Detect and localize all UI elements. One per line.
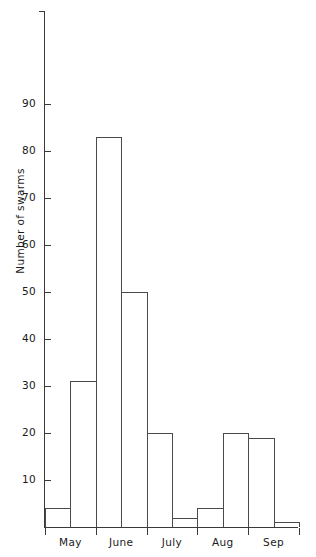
y-tick-label: 10 — [0, 473, 36, 485]
y-axis-title: Number of swarms — [14, 141, 26, 301]
y-tick-mark — [45, 151, 51, 152]
y-axis-line — [44, 11, 45, 528]
y-tick-mark — [45, 104, 51, 105]
bar-july-first — [147, 433, 173, 527]
x-tick-mark — [147, 528, 148, 535]
x-tick-mark — [45, 528, 46, 535]
y-tick-label: 60 — [0, 238, 36, 250]
bar-june-first — [96, 137, 122, 527]
bar-sep-second — [274, 522, 300, 527]
x-tick-mark — [96, 528, 97, 535]
bar-may-first — [45, 508, 71, 527]
y-tick-label: 40 — [0, 332, 36, 344]
x-axis-line — [44, 527, 298, 528]
y-tick-label: 20 — [0, 426, 36, 438]
y-tick-mark — [45, 433, 51, 434]
bar-may-second — [70, 381, 96, 527]
y-tick-label: 50 — [0, 285, 36, 297]
y-tick-label: 90 — [0, 97, 36, 109]
y-tick-mark — [45, 292, 51, 293]
y-tick-mark — [45, 339, 51, 340]
y-tick-mark — [45, 386, 51, 387]
y-tick-mark — [45, 245, 51, 246]
y-tick-label: 70 — [0, 191, 36, 203]
x-tick-mark — [299, 528, 300, 535]
y-axis-top-cap — [39, 11, 45, 12]
bar-june-second — [121, 292, 147, 527]
y-tick-mark — [45, 480, 51, 481]
bar-aug-second — [223, 433, 249, 527]
y-tick-label: 30 — [0, 379, 36, 391]
bar-july-second — [172, 518, 198, 527]
bar-sep-first — [248, 438, 274, 527]
x-label-sep: Sep — [244, 536, 304, 548]
y-tick-label: 80 — [0, 144, 36, 156]
y-tick-mark — [45, 198, 51, 199]
swarm-histogram-chart: Number of swarms 908070605040302010 MayJ… — [0, 0, 316, 557]
x-tick-mark — [197, 528, 198, 535]
x-tick-mark — [248, 528, 249, 535]
bar-aug-first — [197, 508, 223, 527]
